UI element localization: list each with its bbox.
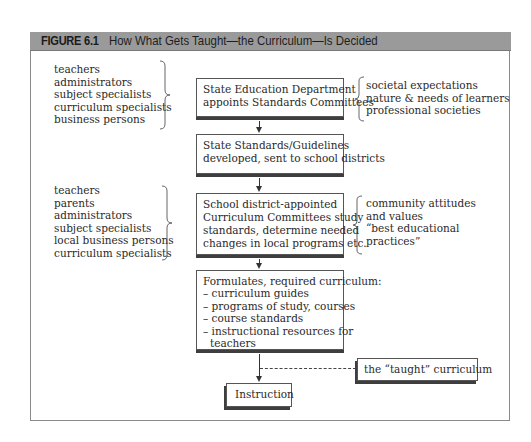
step-text: – programs of study, courses: [203, 300, 337, 312]
step-text: changes in local programs etc.: [203, 237, 337, 250]
right-brace-icon: [160, 185, 174, 261]
step-text: Curriculum Committees study: [203, 211, 337, 224]
taught-curriculum-box: the “taught” curriculum: [357, 358, 478, 381]
arrow-down-icon: [256, 263, 262, 269]
list-item: local business persons: [54, 234, 174, 247]
right-group-state: societal expectations nature & needs of …: [366, 79, 510, 117]
step-text: developed, sent to school districts: [203, 152, 337, 165]
list-item: practices”: [366, 235, 476, 248]
figure-label: FIGURE 6.1: [41, 33, 99, 48]
list-item: societal expectations: [366, 79, 510, 92]
list-item: teachers: [54, 63, 172, 76]
arrow-down-icon: [256, 127, 262, 133]
dashed-connector: [260, 368, 356, 369]
step-text: teachers: [203, 337, 337, 349]
list-item: parents: [54, 197, 174, 210]
step-text: Formulates, required curriculum:: [203, 275, 337, 287]
figure-title-bar: FIGURE 6.1 How What Gets Taught—the Curr…: [30, 32, 511, 51]
list-item: “best educational: [366, 222, 476, 235]
list-item: business persons: [54, 113, 172, 126]
list-item: professional societies: [366, 104, 510, 117]
step-box-instruction: Instruction: [226, 383, 292, 407]
step-text: – curriculum guides: [203, 287, 337, 299]
step-text: – course standards: [203, 312, 337, 324]
list-item: administrators: [54, 76, 172, 89]
list-item: subject specialists: [54, 88, 172, 101]
list-item: subject specialists: [54, 222, 174, 235]
step-box-state-standards: State Standards/Guidelines developed, se…: [196, 134, 344, 174]
taught-curriculum-label: the “taught” curriculum: [364, 363, 471, 376]
list-item: nature & needs of learners: [366, 92, 510, 105]
step-text: Instruction: [235, 388, 283, 401]
step-text: State Education Department: [203, 83, 337, 96]
step-text: School district-appointed: [203, 198, 337, 211]
connector-line: [259, 354, 260, 377]
left-group-state: teachers administrators subject speciali…: [54, 63, 172, 126]
step-box-district-committees: School district-appointed Curriculum Com…: [196, 193, 344, 255]
list-item: curriculum specialists: [54, 101, 172, 114]
list-item: curriculum specialists: [54, 247, 174, 260]
step-text: State Standards/Guidelines: [203, 139, 337, 152]
list-item: teachers: [54, 184, 174, 197]
left-group-district: teachers parents administrators subject …: [54, 184, 174, 260]
step-text: standards, determine needed: [203, 224, 337, 237]
list-item: community attitudes: [366, 197, 476, 210]
right-brace-icon: [158, 60, 172, 130]
step-box-state-education-department: State Education Department appoints Stan…: [196, 78, 344, 117]
step-text: – instructional resources for: [203, 325, 337, 337]
arrow-down-icon: [256, 186, 262, 192]
list-item: and values: [366, 210, 476, 223]
right-group-district: community attitudes and values “best edu…: [366, 197, 476, 247]
list-item: administrators: [54, 209, 174, 222]
arrow-down-icon: [256, 376, 262, 382]
step-box-formulates-curriculum: Formulates, required curriculum: – curri…: [196, 270, 344, 350]
figure-title: How What Gets Taught—the Curriculum—Is D…: [109, 33, 378, 48]
step-text: appoints Standards Committees: [203, 96, 337, 109]
